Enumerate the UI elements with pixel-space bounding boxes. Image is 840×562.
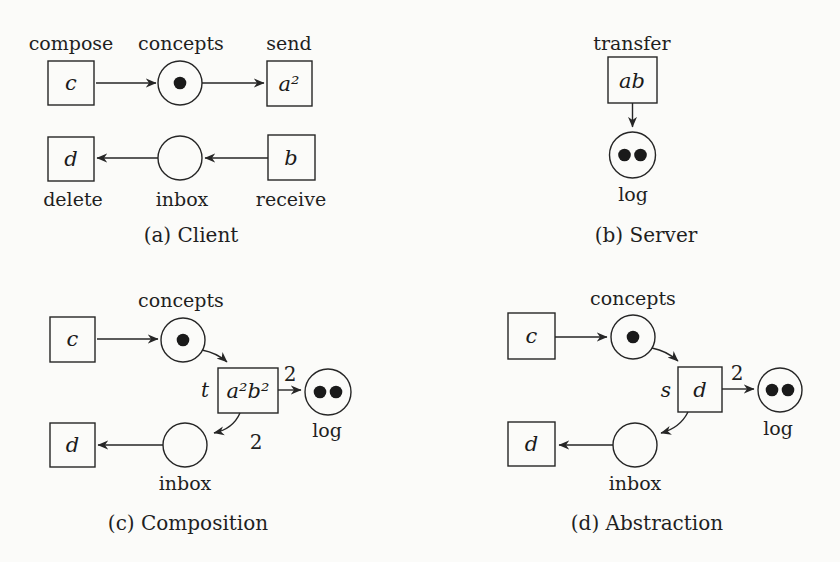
transition-label-send: send bbox=[266, 32, 311, 54]
figure-d-abstraction: concepts c s d 2 log d inbox (d) Abstrac… bbox=[508, 287, 802, 535]
arc-t-to-inbox bbox=[214, 413, 240, 433]
transition-symbol-t: a²b² bbox=[227, 379, 270, 403]
place-log bbox=[758, 368, 802, 412]
place-log bbox=[305, 369, 351, 415]
token-dot bbox=[627, 331, 640, 344]
place-inbox bbox=[163, 423, 207, 467]
place-label-log: log bbox=[618, 183, 648, 205]
arc-concepts-to-t bbox=[202, 350, 227, 362]
arc-weight-t-inbox: 2 bbox=[250, 430, 263, 454]
transition-symbol-delete: d bbox=[64, 147, 77, 171]
place-label-concepts: concepts bbox=[590, 287, 676, 309]
transition-symbol-transfer: ab bbox=[619, 69, 645, 93]
place-inbox bbox=[613, 423, 657, 467]
caption-b: (b) Server bbox=[595, 223, 698, 247]
arc-weight-t-log: 2 bbox=[284, 362, 297, 386]
caption-c: (c) Composition bbox=[108, 511, 268, 535]
figure-c-composition: concepts c t a²b² 2 log 2 d inbox ( bbox=[50, 289, 351, 535]
petri-net-figure: compose concepts send c a² d b delete in… bbox=[0, 0, 840, 562]
transition-label-receive: receive bbox=[256, 188, 326, 210]
token-dot bbox=[314, 386, 327, 399]
place-label-inbox: inbox bbox=[156, 188, 209, 210]
transition-symbol-send: a² bbox=[279, 72, 300, 96]
place-log bbox=[610, 132, 656, 178]
transition-symbol-s: d bbox=[693, 378, 706, 402]
place-label-concepts: concepts bbox=[138, 289, 224, 311]
caption-d: (d) Abstraction bbox=[571, 511, 723, 535]
transition-label-compose: compose bbox=[29, 32, 114, 54]
transition-symbol-compose: c bbox=[67, 327, 79, 351]
place-label-concepts: concepts bbox=[138, 32, 224, 54]
place-label-log: log bbox=[763, 417, 793, 439]
transition-symbol-compose: c bbox=[526, 324, 538, 348]
arc-s-to-inbox bbox=[661, 412, 688, 433]
scanned-figure-page: compose concepts send c a² d b delete in… bbox=[0, 0, 840, 562]
token-dot bbox=[766, 384, 779, 397]
transition-symbol-delete: d bbox=[66, 433, 79, 457]
token-dot bbox=[618, 149, 631, 162]
transition-symbol-compose: c bbox=[65, 71, 77, 95]
figure-b-server: transfer ab log (b) Server bbox=[593, 32, 697, 247]
token-dot bbox=[782, 384, 795, 397]
arc-weight-s-log: 2 bbox=[731, 361, 744, 385]
place-label-inbox: inbox bbox=[159, 472, 212, 494]
place-inbox bbox=[158, 136, 202, 180]
token-dot bbox=[634, 149, 647, 162]
place-label-log: log bbox=[312, 419, 342, 441]
token-dot bbox=[177, 334, 190, 347]
place-label-inbox: inbox bbox=[609, 472, 662, 494]
token-dot bbox=[330, 386, 343, 399]
transition-symbol-receive: b bbox=[284, 146, 297, 170]
caption-a: (a) Client bbox=[144, 223, 239, 247]
transition-symbol-delete: d bbox=[525, 432, 538, 456]
transition-name-t: t bbox=[201, 378, 210, 402]
transition-label-delete: delete bbox=[43, 188, 103, 210]
transition-label-transfer: transfer bbox=[593, 32, 671, 54]
token-dot bbox=[174, 77, 187, 90]
transition-name-s: s bbox=[661, 378, 671, 402]
arc-concepts-to-s bbox=[652, 348, 678, 361]
figure-a-client: compose concepts send c a² d b delete in… bbox=[29, 32, 326, 247]
